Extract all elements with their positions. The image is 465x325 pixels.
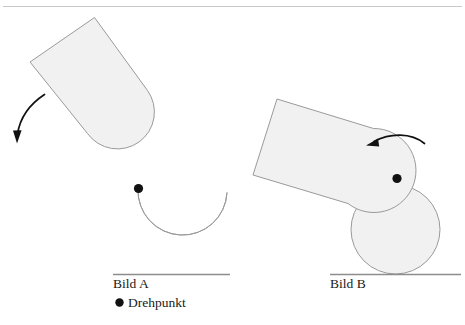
lever-shape-b	[253, 99, 416, 212]
legend-pivot-dot	[115, 298, 123, 306]
rotation-arrow-a	[18, 95, 45, 135]
notched-disc-a	[138, 189, 227, 236]
rotation-arrow-a-head	[13, 130, 22, 143]
pivot-dot-b	[392, 174, 401, 183]
figure-canvas: Bild A Drehpunkt Bild B	[0, 0, 465, 325]
pivot-dot-a	[134, 184, 143, 193]
legend-label: Drehpunkt	[128, 295, 186, 310]
caption-bild-b: Bild B	[330, 276, 366, 291]
lever-shape-a	[30, 18, 154, 149]
figure-root: Bild A Drehpunkt Bild B	[0, 0, 465, 325]
panel-b: Bild B	[253, 99, 461, 291]
panel-a: Bild A Drehpunkt	[13, 18, 230, 311]
caption-bild-a: Bild A	[113, 276, 149, 291]
